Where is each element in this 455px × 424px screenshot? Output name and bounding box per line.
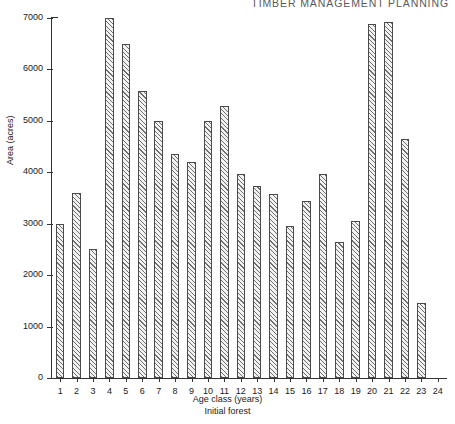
bar	[351, 221, 360, 378]
x-axis-tick	[241, 378, 242, 382]
x-axis-tick	[109, 378, 110, 382]
bar	[302, 201, 311, 378]
y-axis-tick: 4000	[47, 172, 53, 173]
x-axis-tick	[192, 378, 193, 382]
x-axis-tick	[372, 378, 373, 382]
y-axis-tick-label: 4000	[23, 166, 43, 177]
bar	[138, 91, 147, 378]
y-axis-tick-label: 3000	[23, 218, 43, 229]
bar	[319, 174, 328, 378]
bar	[417, 303, 426, 378]
x-axis-tick	[77, 378, 78, 382]
bar	[401, 139, 410, 378]
x-axis-tick	[159, 378, 160, 382]
x-axis-tick	[274, 378, 275, 382]
bar	[56, 224, 65, 378]
x-axis-sublabel: Initial forest	[0, 406, 455, 416]
y-axis-tick: 3000	[47, 224, 53, 225]
bar	[171, 154, 180, 378]
x-axis-tick	[389, 378, 390, 382]
x-axis-tick	[60, 378, 61, 382]
x-axis-tick	[290, 378, 291, 382]
x-axis-label: Age class (years)	[0, 394, 455, 404]
page-root: TIMBER MANAGEMENT PLANNING Area (acres) …	[0, 0, 455, 424]
x-axis-tick	[208, 378, 209, 382]
bar	[105, 18, 114, 378]
x-axis-tick	[438, 378, 439, 382]
bar-chart: Area (acres) 010002000300040005000600070…	[0, 0, 455, 424]
bar	[335, 242, 344, 378]
x-axis-tick	[356, 378, 357, 382]
y-axis-tick-label: 2000	[23, 269, 43, 280]
bar	[253, 186, 262, 378]
plot-region: 0100020003000400050006000700012345678910…	[52, 18, 446, 378]
x-axis-tick	[142, 378, 143, 382]
bar	[154, 121, 163, 378]
bar	[220, 106, 229, 378]
y-axis-tick-label: 5000	[23, 115, 43, 126]
bar	[237, 174, 246, 378]
bar	[384, 22, 393, 378]
bar	[122, 44, 131, 378]
x-axis-tick	[421, 378, 422, 382]
x-axis-tick	[175, 378, 176, 382]
bar	[89, 249, 98, 378]
bar	[204, 121, 213, 378]
y-axis-tick-label: 6000	[23, 63, 43, 74]
bar	[187, 162, 196, 378]
y-axis-tick-label: 1000	[23, 321, 43, 332]
y-axis-tick: 7000	[47, 18, 53, 19]
x-axis-tick	[339, 378, 340, 382]
x-axis-tick	[93, 378, 94, 382]
bars-container	[52, 18, 446, 378]
x-axis-tick	[257, 378, 258, 382]
y-axis-tick-label: 0	[38, 372, 43, 383]
bar	[269, 194, 278, 378]
y-axis-tick: 6000	[47, 69, 53, 70]
x-axis-tick	[224, 378, 225, 382]
x-axis-tick	[323, 378, 324, 382]
x-axis-tick	[306, 378, 307, 382]
x-axis-tick	[405, 378, 406, 382]
y-axis-tick: 1000	[47, 327, 53, 328]
y-axis-tick: 0	[47, 378, 53, 379]
x-axis-tick	[126, 378, 127, 382]
y-axis-tick-label: 7000	[23, 12, 43, 23]
bar	[286, 226, 295, 378]
bar	[72, 193, 81, 378]
y-axis-tick: 2000	[47, 275, 53, 276]
y-axis-label: Area (acres)	[5, 115, 15, 165]
bar	[368, 24, 377, 378]
y-axis-tick: 5000	[47, 121, 53, 122]
